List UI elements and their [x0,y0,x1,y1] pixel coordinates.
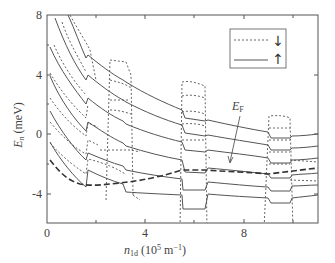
energy-level-chart: 8 4 0 -4 0 4 8 n1d (105 m−1) En (meV) [0,0,335,263]
x-tick-label: 0 [44,226,50,240]
fermi-energy-annotation: EF [231,99,244,114]
y-tick-label: 8 [36,8,42,22]
y-tick-label: -4 [32,187,42,201]
spin-down-arrow-icon: ↓ [272,33,284,49]
x-axis-label: n1d (105 m−1) [124,243,186,258]
x-tick-label: 8 [241,226,247,240]
spin-up-arrow-icon: ↑ [272,51,284,67]
x-tick-label: 4 [142,226,148,240]
y-tick-label: 4 [36,68,42,82]
y-axis-label: En (meV) [11,102,26,149]
y-tick-label: 0 [36,127,42,141]
legend: ↓ ↑ [230,29,286,68]
